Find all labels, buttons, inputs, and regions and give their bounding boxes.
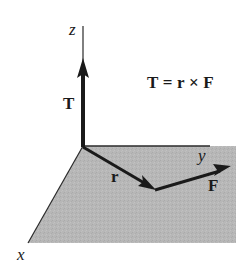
cross-product-diagram: z y x T r F T = r × F	[0, 0, 251, 276]
x-axis-label: x	[17, 246, 25, 263]
z-axis-label: z	[69, 21, 76, 38]
force-vector-label: F	[208, 177, 218, 194]
torque-vector-label: T	[63, 95, 74, 112]
diagram-graphics	[0, 0, 251, 276]
cross-product-equation: T = r × F	[147, 74, 214, 91]
position-vector-label: r	[111, 168, 119, 185]
y-axis-label: y	[198, 147, 206, 164]
